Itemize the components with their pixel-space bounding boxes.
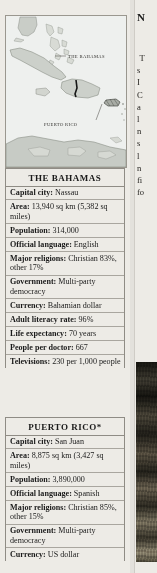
table-row: Major religions: Christian 85%, other 15…: [6, 501, 124, 525]
right-column-text-fragments: T s I C a l n s l n fi fo: [137, 52, 157, 198]
row-key: Official language:: [10, 489, 72, 498]
row-key: Life expectancy:: [10, 329, 67, 338]
row-key: Major religions:: [10, 254, 66, 263]
map-label-the-bahamas: THE BAHAMAS: [68, 54, 105, 59]
text-line-fragment: I: [137, 76, 157, 88]
row-key: Government:: [10, 277, 56, 286]
row-key: Currency:: [10, 550, 46, 559]
table-row: Televisions: 230 per 1,000 people: [6, 355, 124, 368]
table-row: Population: 314,000: [6, 224, 124, 238]
fact-table-title: PUERTO RICO*: [6, 417, 124, 436]
table-row: Life expectancy: 70 years: [6, 327, 124, 341]
row-key: Official language:: [10, 240, 72, 249]
right-column-heading-fragment: N: [137, 11, 145, 23]
table-row: Official language: English: [6, 238, 124, 252]
row-value: Bahamian dollar: [48, 301, 102, 310]
table-row: Currency: US dollar: [6, 548, 124, 561]
text-line-fragment: s: [137, 64, 157, 76]
photograph: [136, 362, 157, 562]
row-value: 667: [76, 343, 88, 352]
text-line-fragment: C: [137, 89, 157, 101]
row-key: Area:: [10, 202, 30, 211]
table-row: Official language: Spanish: [6, 487, 124, 501]
text-line-fragment: T: [137, 52, 157, 64]
table-row: Population: 3,890,000: [6, 473, 124, 487]
left-column: THE BAHAMAS PUERTO RICO THE BAHAMAS Capi…: [0, 0, 130, 573]
text-line-fragment: a: [137, 101, 157, 113]
row-key: Government:: [10, 526, 56, 535]
row-value: 70 years: [69, 329, 96, 338]
table-row: Adult literacy rate: 96%: [6, 313, 124, 327]
row-value: 314,000: [53, 226, 79, 235]
row-key: Population:: [10, 226, 50, 235]
text-line-fragment: n: [137, 125, 157, 137]
table-row: Government: Multi-party democracy: [6, 525, 124, 549]
text-line-fragment: fo: [137, 186, 157, 198]
row-value: Nassau: [55, 188, 78, 197]
table-row: Government: Multi-party democracy: [6, 276, 124, 300]
table-row: Capital city: Nassau: [6, 187, 124, 201]
row-key: People per doctor:: [10, 343, 74, 352]
row-key: Adult literacy rate:: [10, 315, 77, 324]
row-key: Currency:: [10, 301, 46, 310]
photograph-texture: [136, 362, 157, 562]
table-row: People per doctor: 667: [6, 341, 124, 355]
table-row: Capital city: San Juan: [6, 436, 124, 450]
column-gutter: [130, 0, 135, 573]
fact-table-puerto-rico: PUERTO RICO* Capital city: San Juan Area…: [5, 417, 125, 561]
row-key: Capital city:: [10, 437, 53, 446]
map-label-puerto-rico: PUERTO RICO: [44, 122, 78, 127]
row-value: 230 per 1,000 people: [52, 357, 120, 366]
right-column-cropped: N T s I C a l n s l n fi fo: [130, 0, 157, 573]
fact-table-title: THE BAHAMAS: [6, 168, 124, 187]
row-key: Capital city:: [10, 188, 53, 197]
caribbean-map-figure: THE BAHAMAS PUERTO RICO: [5, 15, 127, 168]
text-line-fragment: n: [137, 162, 157, 174]
table-row: Currency: Bahamian dollar: [6, 299, 124, 313]
table-row: Major religions: Christian 83%, other 17…: [6, 252, 124, 276]
table-row: Area: 13,940 sq km (5,382 sq miles): [6, 200, 124, 224]
map-graphic: THE BAHAMAS PUERTO RICO: [6, 16, 126, 167]
fact-table-bahamas: THE BAHAMAS Capital city: Nassau Area: 1…: [5, 168, 125, 368]
table-row: Area: 8,875 sq km (3,427 sq miles): [6, 449, 124, 473]
scanned-page: THE BAHAMAS PUERTO RICO THE BAHAMAS Capi…: [0, 0, 157, 573]
row-value: US dollar: [48, 550, 79, 559]
row-key: Area:: [10, 451, 30, 460]
row-key: Population:: [10, 475, 50, 484]
row-value: 96%: [79, 315, 94, 324]
text-line-fragment: l: [137, 150, 157, 162]
text-line-fragment: fi: [137, 174, 157, 186]
row-value: English: [74, 240, 99, 249]
row-value: 3,890,000: [53, 475, 85, 484]
row-value: San Juan: [55, 437, 84, 446]
row-key: Major religions:: [10, 503, 66, 512]
row-key: Televisions:: [10, 357, 50, 366]
row-value: Spanish: [74, 489, 100, 498]
text-line-fragment: l: [137, 113, 157, 125]
text-line-fragment: s: [137, 137, 157, 149]
